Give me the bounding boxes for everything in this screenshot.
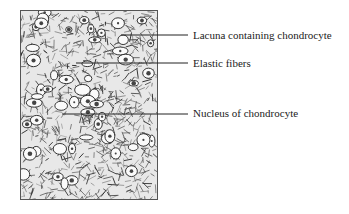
label-nucleus: Nucleus of chondrocyte <box>193 107 298 119</box>
label-lacuna: Lacuna containing chondrocyte <box>193 29 332 41</box>
cartilage-texture <box>21 11 157 199</box>
label-elastic-fibers: Elastic fibers <box>193 57 251 69</box>
cartilage-illustration <box>20 10 158 200</box>
